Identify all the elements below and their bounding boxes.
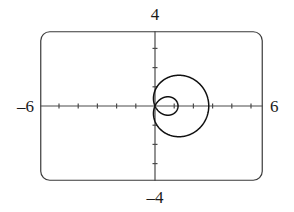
- graph-figure: 4 –4 –6 6: [0, 0, 294, 212]
- y-axis-min-label: –4: [146, 188, 165, 207]
- x-axis-max-label: 6: [270, 97, 279, 116]
- x-axis-min-label: –6: [16, 97, 34, 116]
- plot-canvas: 4 –4 –6 6: [0, 0, 294, 212]
- y-axis-max-label: 4: [151, 5, 160, 24]
